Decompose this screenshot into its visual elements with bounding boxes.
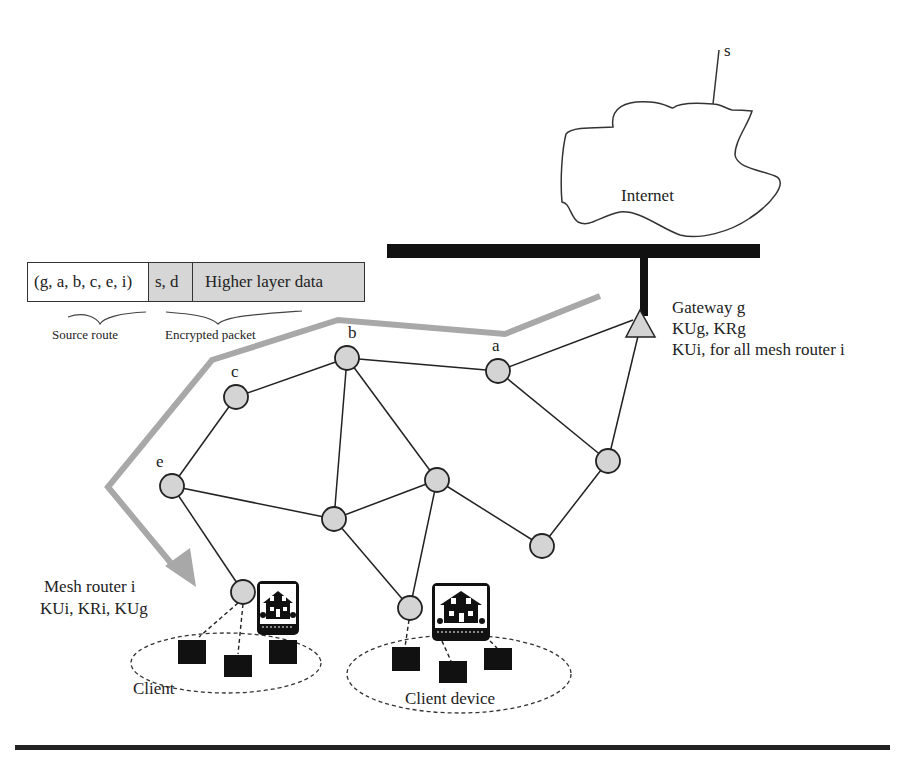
client-device[interactable] [224, 655, 252, 677]
node-i[interactable] [231, 580, 255, 604]
gateway-stem [640, 258, 648, 316]
house-icon [432, 583, 490, 641]
node-bottom-right[interactable] [530, 534, 554, 558]
node-label-e: e [156, 451, 164, 472]
bottom-rule [15, 745, 890, 750]
mesh-router-keys: KUi, KRi, KUg [40, 598, 148, 619]
node-right[interactable] [596, 449, 620, 473]
node-bottom-center[interactable] [398, 596, 422, 620]
source-route-caption: Source route [52, 324, 118, 345]
source-route-brace [68, 312, 146, 324]
packet-addresses: s, d [149, 263, 193, 301]
node-c[interactable] [224, 385, 248, 409]
packet-payload: Higher layer data [193, 263, 364, 301]
gateway-all-keys: KUi, for all mesh router i [672, 339, 845, 360]
node-label-b: b [348, 322, 357, 343]
source-label: s [724, 40, 731, 61]
node-e[interactable] [160, 474, 184, 498]
node-b[interactable] [335, 346, 359, 370]
mesh-network-diagram [0, 0, 920, 762]
client-device[interactable] [392, 647, 420, 671]
client-device[interactable] [439, 661, 467, 683]
client-label: Client [133, 678, 175, 699]
internet-label: Internet [621, 185, 674, 206]
encrypted-packet-brace [166, 311, 302, 324]
node-a[interactable] [486, 359, 510, 383]
internet-bus [387, 244, 760, 258]
node-label-a: a [492, 335, 500, 356]
gateway-triangle[interactable] [626, 310, 655, 337]
mesh-links [172, 320, 638, 608]
client-device[interactable] [269, 640, 297, 664]
gateway-keys: KUg, KRg [672, 318, 746, 339]
encrypted-packet-caption: Encrypted packet [165, 324, 256, 345]
gateway-label: Gateway g [672, 297, 745, 318]
node-center[interactable] [322, 507, 346, 531]
packet-format: (g, a, b, c, e, i) s, d Higher layer dat… [27, 262, 365, 302]
client-device[interactable] [178, 640, 206, 664]
mesh-router-label: Mesh router i [44, 576, 136, 597]
client-device-label: Client device [405, 688, 495, 709]
node-mid[interactable] [425, 468, 449, 492]
source-link [713, 50, 719, 104]
packet-source-route: (g, a, b, c, e, i) [28, 263, 149, 301]
client-device[interactable] [484, 648, 512, 670]
node-label-c: c [231, 361, 239, 382]
internet-cloud [561, 102, 780, 237]
house-icon [257, 581, 299, 635]
route-arrowhead [165, 548, 196, 587]
